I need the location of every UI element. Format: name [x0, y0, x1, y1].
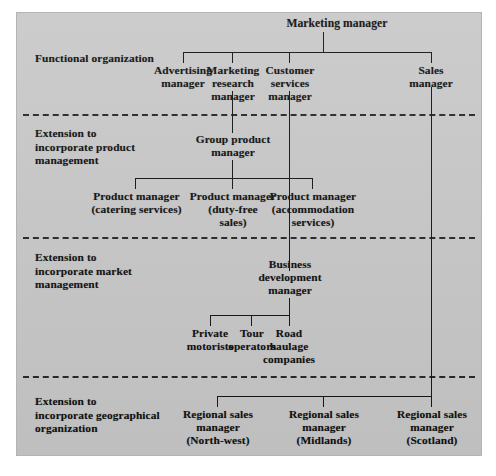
band-label-product-line3: management	[35, 154, 195, 168]
node-regional-sales-north-west: Regional sales manager (North-west)	[174, 408, 262, 447]
band-label-market-line2: incorporate market	[35, 265, 195, 279]
node-customer-services-manager-line1: Customer	[259, 64, 321, 77]
node-product-manager-duty-free-line1: Product manager	[187, 190, 279, 203]
connector-group-product-stem	[232, 160, 233, 178]
node-product-manager-catering: Product manager (catering services)	[87, 190, 186, 216]
node-product-manager-duty-free-line2: (duty-free	[187, 203, 279, 216]
node-product-manager-accommodation-line3: services)	[267, 216, 359, 229]
connector-drop-customer-services	[289, 52, 290, 63]
node-business-development-manager-line1: Business	[257, 258, 323, 271]
node-regional-sales-scotland-line2: manager	[388, 421, 476, 434]
band-label-functional-text: Functional organization	[35, 52, 185, 66]
connector-drop-road-haulage	[289, 315, 290, 326]
band-label-market: Extension to incorporate market manageme…	[35, 251, 195, 292]
connector-drop-midlands	[323, 396, 324, 407]
connector-drop-tour-operators	[251, 315, 252, 326]
node-business-development-manager: Business development manager	[257, 258, 323, 297]
connector-drop-catering	[135, 178, 136, 189]
connector-root-stem	[323, 32, 324, 52]
node-regional-sales-north-west-line1: Regional sales	[174, 408, 262, 421]
band-label-product-line2: incorporate product	[35, 141, 195, 155]
node-marketing-manager: Marketing manager	[272, 17, 402, 30]
node-marketing-research-manager-line1: Marketing	[202, 64, 264, 77]
node-regional-sales-scotland-line1: Regional sales	[388, 408, 476, 421]
trunk-customer-services	[289, 91, 290, 271]
node-marketing-research-manager-line3: manager	[202, 90, 264, 103]
node-regional-sales-midlands: Regional sales manager (Midlands)	[280, 408, 368, 447]
divider-market-geographical	[23, 376, 475, 378]
node-road-haulage-companies-line1: Road	[258, 327, 320, 340]
node-product-manager-duty-free: Product manager (duty-free sales)	[187, 190, 279, 229]
connector-product-bus	[135, 178, 312, 179]
connector-drop-duty-free	[232, 178, 233, 189]
node-business-development-manager-line2: development	[257, 271, 323, 284]
band-label-market-line1: Extension to	[35, 251, 195, 265]
node-marketing-manager-label: Marketing manager	[272, 17, 402, 30]
node-sales-manager-line1: Sales	[399, 64, 463, 77]
band-label-geographical-line1: Extension to	[35, 395, 215, 409]
node-road-haulage-companies: Road haulage companies	[258, 327, 320, 366]
node-product-manager-catering-line1: Product manager	[87, 190, 186, 203]
node-group-product-manager-line1: Group product	[195, 133, 271, 146]
connector-drop-private-motorists	[210, 315, 211, 326]
node-product-manager-duty-free-line3: sales)	[187, 216, 279, 229]
figure-canvas: Marketing manager Advertising manager Ma…	[0, 0, 496, 476]
divider-product-market	[23, 237, 475, 239]
node-sales-manager: Sales manager	[399, 64, 463, 90]
node-marketing-research-manager-line2: research	[202, 77, 264, 90]
divider-functional-product	[23, 114, 475, 116]
node-regional-sales-midlands-line2: manager	[280, 421, 368, 434]
node-product-manager-catering-line2: (catering services)	[87, 203, 186, 216]
node-regional-sales-north-west-line3: (North-west)	[174, 434, 262, 447]
connector-business-development-stem	[289, 298, 290, 315]
node-group-product-manager: Group product manager	[195, 133, 271, 159]
node-group-product-manager-line2: manager	[195, 146, 271, 159]
node-road-haulage-companies-line2: haulage	[258, 340, 320, 353]
connector-drop-sales	[431, 52, 432, 63]
node-customer-services-manager: Customer services manager	[259, 64, 321, 103]
band-label-functional: Functional organization	[35, 52, 185, 66]
band-label-product-line1: Extension to	[35, 127, 195, 141]
node-marketing-research-manager: Marketing research manager	[202, 64, 264, 103]
node-regional-sales-north-west-line2: manager	[174, 421, 262, 434]
node-product-manager-accommodation-line1: Product manager	[267, 190, 359, 203]
connector-functional-bus	[183, 52, 431, 53]
node-product-manager-accommodation-line2: (accommodation	[267, 203, 359, 216]
node-regional-sales-midlands-line1: Regional sales	[280, 408, 368, 421]
node-regional-sales-scotland: Regional sales manager (Scotland)	[388, 408, 476, 447]
node-regional-sales-midlands-line3: (Midlands)	[280, 434, 368, 447]
trunk-sales	[431, 87, 432, 396]
node-customer-services-manager-line2: services	[259, 77, 321, 90]
connector-drop-scotland	[431, 396, 432, 407]
node-road-haulage-companies-line3: companies	[258, 353, 320, 366]
node-business-development-manager-line3: manager	[257, 284, 323, 297]
connector-regional-bus	[217, 396, 431, 397]
node-regional-sales-scotland-line3: (Scotland)	[388, 434, 476, 447]
trunk-marketing-research	[232, 91, 233, 133]
chart-panel: Marketing manager Advertising manager Ma…	[17, 13, 481, 455]
node-product-manager-accommodation: Product manager (accommodation services)	[267, 190, 359, 229]
band-label-market-line3: management	[35, 278, 195, 292]
connector-market-bus	[210, 315, 289, 316]
connector-drop-north-west	[217, 396, 218, 407]
band-label-product: Extension to incorporate product managem…	[35, 127, 195, 168]
connector-drop-accommodation	[312, 178, 313, 189]
connector-drop-marketing-research	[232, 52, 233, 63]
node-customer-services-manager-line3: manager	[259, 90, 321, 103]
